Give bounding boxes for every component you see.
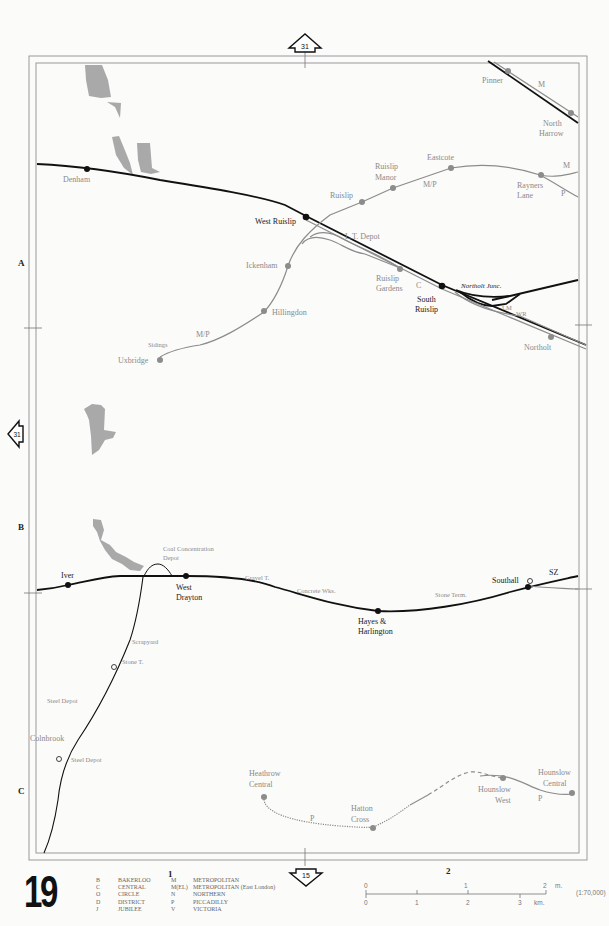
station-label-rayners-2: Lane [517, 191, 533, 200]
feature-label-coal-depot-1: Coal Concentration [163, 545, 214, 552]
line-colnbrook-branch [44, 577, 143, 853]
scale-km-3: 3 [518, 899, 522, 906]
legend-row: NNORTHERN [171, 891, 275, 898]
station-label-hatton-cross-1: Hatton [351, 804, 373, 813]
scale-km-1: 1 [415, 899, 419, 906]
legend-row: DDISTRICT [96, 899, 151, 906]
line-code-mp-uxbridge: M/P [196, 330, 210, 339]
station-label-heathrow-1: Heathrow [249, 769, 281, 778]
station-label-hayes-2: Harlington [358, 627, 393, 636]
feature-label-northolt-junction: Northolt Junc. [460, 282, 502, 290]
feature-label-stone-terminal: Stone Term. [435, 591, 467, 598]
station-label-ruislip-gardens-2: Gardens [376, 284, 403, 293]
station-label-south-ruislip-2: Ruislip [415, 305, 438, 314]
legend-column-left: BBAKERLOO CCENTRAL OCIRCLE DDISTRICT JJU… [96, 877, 151, 913]
legend-row: BBAKERLOO [96, 877, 151, 884]
station-label-hounslow-west-2: West [495, 796, 512, 805]
station-label-hounslow-central-1: Hounslow [538, 768, 571, 777]
legend-row: PPICCADILLY [171, 899, 275, 906]
scale-km-unit: km. [534, 899, 544, 906]
line-pinner [488, 61, 578, 123]
station-label-west-drayton-1: West [176, 583, 193, 592]
station-label-ruislip-manor-2: Manor [375, 173, 397, 182]
feature-label-sz: SZ [549, 568, 558, 577]
station-label-ickenham: Ickenham [246, 261, 278, 270]
page-arrow-left[interactable]: 31 [8, 421, 23, 447]
grid-row-label-a: A [18, 258, 25, 268]
station-label-southall: Southall [492, 576, 519, 585]
station-label-ruislip: Ruislip [330, 191, 353, 200]
feature-label-steel-depot-2: Steel Depot [71, 756, 102, 763]
page-number: 19 [24, 870, 56, 914]
station-label-west-drayton-2: Drayton [176, 593, 202, 602]
station-label-south-ruislip-1: South [417, 295, 436, 304]
station-label-eastcote: Eastcote [427, 153, 455, 162]
line-heathrow-extension-dotted [264, 797, 410, 827]
station-label-hatton-cross-2: Cross [351, 815, 369, 824]
line-code-c-gardens: C [416, 281, 421, 290]
legend-row: OCIRCLE [96, 891, 151, 898]
station-label-hayes-1: Hayes & [358, 617, 387, 626]
legend-row: MMETROPOLITAN [171, 877, 275, 884]
station-label-northolt: Northolt [524, 343, 552, 352]
scale-km-0: 0 [364, 899, 368, 906]
station-label-north-harrow-2: Harrow [539, 129, 564, 138]
page-arrow-top[interactable]: 31 [289, 34, 321, 52]
top-arrow-page-number: 31 [301, 43, 309, 50]
legend-column-right: MMETROPOLITAN M(EL)METROPOLITAN (East Lo… [171, 877, 275, 913]
station-label-iver: Iver [61, 571, 74, 580]
station-label-heathrow-2: Central [249, 780, 273, 789]
line-code-m-rayners: M [563, 161, 570, 170]
station-label-pinner: Pinner [482, 76, 503, 85]
grid-column-label-2: 2 [446, 866, 451, 876]
feature-label-scrapyard: Scrapyard [132, 638, 159, 645]
line-heathrow-extension-solid [410, 795, 428, 805]
line-code-m-pinner: M [538, 80, 545, 89]
feature-label-gravel-terminal: Gravel T. [245, 574, 270, 581]
bottom-arrow-page-number: 15 [302, 872, 310, 879]
map-outer-frame [29, 56, 587, 860]
scale-mile-2: 2 [543, 882, 547, 889]
station-label-colnbrook: Colnbrook [30, 734, 64, 743]
page-arrow-bottom[interactable]: 15 [290, 869, 322, 886]
line-code-p-rayners: P [561, 189, 566, 198]
line-code-lm: LM [502, 304, 512, 311]
scale-miles-unit: m. [555, 882, 562, 889]
line-code-p-hounslow: P [538, 794, 543, 803]
station-label-hounslow-west-1: Hounslow [478, 785, 511, 794]
scale-bar: 0 1 2 m. 0 1 2 3 km. (1:70,000) [360, 880, 609, 910]
station-label-denham: Denham [63, 175, 91, 184]
legend-row: M(EL)METROPOLITAN (East London) [171, 884, 275, 891]
station-label-ruislip-gardens-1: Ruislip [376, 274, 399, 283]
legend-row: VVICTORIA [171, 906, 275, 913]
line-code-mp-eastcote: M/P [423, 180, 437, 189]
feature-label-lt-depot: L.T. Depot [345, 232, 381, 241]
station-label-rayners-1: Rayners [517, 181, 543, 190]
scale-ratio: (1:70,000) [576, 889, 606, 896]
main-lines [37, 61, 586, 853]
station-label-uxbridge: Uxbridge [118, 356, 149, 365]
station-label-ruislip-manor-1: Ruislip [375, 162, 398, 171]
station-label-hillingdon: Hillingdon [272, 308, 307, 317]
feature-label-stone-t: Stone T. [122, 658, 144, 665]
map-inner-frame [36, 63, 579, 853]
scale-mile-1: 1 [464, 882, 468, 889]
main-line-stations [65, 166, 531, 614]
feature-label-steel-depot-1: Steel Depot [47, 697, 78, 704]
railway-map: A B C 31 31 15 [0, 0, 609, 926]
legend-row: JJUBILEE [96, 906, 151, 913]
underground-stations [157, 68, 575, 831]
line-denham-northolt [37, 164, 586, 345]
legend-row: CCENTRAL [96, 884, 151, 891]
underground-lines [160, 62, 586, 795]
feature-label-sidings: Sidings [148, 341, 168, 348]
scale-bar-graphic [360, 880, 609, 910]
grid-row-label-c: C [18, 786, 25, 796]
feature-label-concrete-works: Concrete Wks. [297, 587, 336, 594]
feature-label-coal-depot-2: Depot [163, 554, 179, 561]
station-label-west-ruislip: West Ruislip [255, 217, 296, 226]
line-code-p-heathrow: P [310, 814, 315, 823]
station-label-hounslow-central-2: Central [543, 779, 567, 788]
grid-row-label-b: B [18, 522, 24, 532]
water-bodies [84, 65, 160, 571]
